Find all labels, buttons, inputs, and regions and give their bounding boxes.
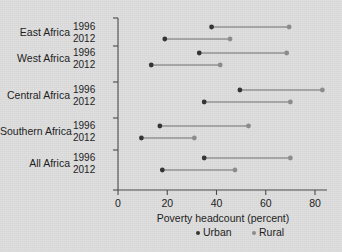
x-tick-label-60: 60 [246,197,286,209]
legend-dot-urban [196,231,200,235]
urban-data-point [162,37,167,42]
rural-data-point [288,156,293,161]
rural-data-point [287,25,292,30]
rural-data-point [192,136,197,141]
urban-data-point [202,156,207,161]
year-label-2012: 2012 [73,33,107,44]
year-label-1996: 1996 [73,21,107,32]
urban-data-point [237,88,242,93]
year-label-1996: 1996 [73,47,107,58]
category-label-southern-africa: Southern Africa [0,125,70,137]
category-label-east-africa: East Africa [0,26,70,38]
rural-data-point [246,124,251,129]
x-axis-title: Poverty headcount (percent) [118,212,328,224]
year-label-2012: 2012 [73,96,107,107]
rural-data-point [228,37,233,42]
urban-data-point [157,124,162,129]
category-label-central-africa: Central Africa [0,89,70,101]
urban-data-point [209,25,214,30]
year-label-2012: 2012 [73,132,107,143]
urban-data-point [197,51,202,56]
legend-label-urban: Urban [203,226,232,238]
legend-dot-rural [252,231,256,235]
year-label-1996: 1996 [73,84,107,95]
urban-data-point [149,63,154,68]
rural-data-point [288,100,293,105]
year-label-2012: 2012 [73,164,107,175]
rural-data-point [284,51,289,56]
year-label-1996: 1996 [73,120,107,131]
rural-data-point [218,63,223,68]
x-tick-label-20: 20 [147,197,187,209]
urban-data-point [202,100,207,105]
year-label-2012: 2012 [73,59,107,70]
x-tick-label-40: 40 [197,197,237,209]
legend-label-rural: Rural [259,226,284,238]
rural-data-point [233,168,238,173]
category-label-all-africa: All Africa [0,157,70,169]
rural-data-point [320,88,325,93]
x-tick-label-0: 0 [98,197,138,209]
year-label-1996: 1996 [73,152,107,163]
urban-data-point [139,136,144,141]
urban-data-point [160,168,165,173]
category-label-west-africa: West Africa [0,52,70,64]
chart-figure: 1996201219962012199620121996201219962012… [0,0,342,252]
x-tick-label-80: 80 [295,197,335,209]
